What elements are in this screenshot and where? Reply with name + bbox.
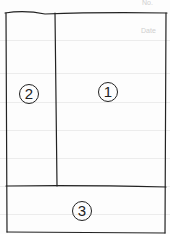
cue-column-label: 2 (19, 84, 39, 104)
main-notes-label: 1 (98, 82, 118, 102)
layout-sketch (0, 0, 170, 234)
summary-label: 3 (72, 201, 92, 221)
